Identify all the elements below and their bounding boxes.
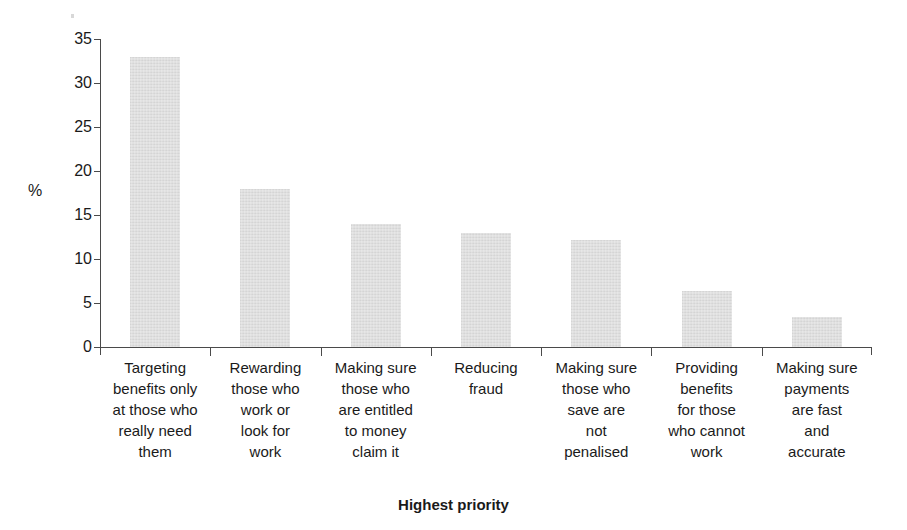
y-axis-title: %	[28, 182, 42, 200]
category-separator-tick	[431, 348, 432, 356]
x-axis-category-label-line: work	[204, 441, 326, 462]
x-axis-category-label-line: work	[645, 441, 767, 462]
x-axis-category-label: Targetingbenefits onlyat those whoreally…	[94, 357, 216, 462]
bar	[461, 233, 511, 347]
x-axis-category-label-line: Rewarding	[204, 357, 326, 378]
category-separator-tick	[321, 348, 322, 356]
x-axis-category-label-line: and	[756, 420, 878, 441]
x-axis-category-label-line: Providing	[645, 357, 767, 378]
x-axis-category-label-line: Reducing	[425, 357, 547, 378]
x-axis-category-label-line: work or	[204, 399, 326, 420]
y-axis-tick-label: 35	[52, 31, 92, 47]
x-axis-category-label: Reducingfraud	[425, 357, 547, 399]
x-axis-category-label: Making surethose whosave arenotpenalised	[535, 357, 657, 462]
x-axis-category-label-line: save are	[535, 399, 657, 420]
category-separator-tick	[541, 348, 542, 356]
bar	[351, 224, 401, 347]
y-axis-tick-label: 20	[52, 163, 92, 179]
x-axis-category-label-line: those who	[535, 378, 657, 399]
bar	[571, 240, 621, 347]
x-axis-category-label-line: look for	[204, 420, 326, 441]
x-axis-category-label-line: are fast	[756, 399, 878, 420]
x-axis-category-label-line: them	[94, 441, 216, 462]
x-axis-category-label-line: claim it	[315, 441, 437, 462]
bar	[792, 317, 842, 347]
y-axis-tick-label: 30	[52, 75, 92, 91]
x-axis-category-label-line: penalised	[535, 441, 657, 462]
bar	[682, 291, 732, 347]
bar	[130, 57, 180, 347]
x-axis-category-label: Making surethose whoare entitledto money…	[315, 357, 437, 462]
x-axis-category-label-line: Targeting	[94, 357, 216, 378]
x-axis-category-label: Rewardingthose whowork orlook forwork	[204, 357, 326, 462]
x-axis-category-label-line: Making sure	[535, 357, 657, 378]
y-axis-tick-label: 25	[52, 119, 92, 135]
x-axis-title: Highest priority	[0, 496, 907, 513]
y-axis-tick-label: 15	[52, 207, 92, 223]
x-axis-category-label-line: to money	[315, 420, 437, 441]
x-axis-line	[100, 347, 872, 348]
x-axis-category-label-line: fraud	[425, 378, 547, 399]
x-axis-category-label-line: really need	[94, 420, 216, 441]
category-separator-tick	[762, 348, 763, 356]
y-axis-tick-label: 5	[52, 295, 92, 311]
x-axis-category-label-line: at those who	[94, 399, 216, 420]
scan-artifact	[71, 14, 74, 18]
x-axis-category-label-line: benefits only	[94, 378, 216, 399]
plot-area	[100, 39, 872, 347]
x-axis-category-label: Providingbenefitsfor thosewho cannotwork	[645, 357, 767, 462]
bar	[240, 189, 290, 347]
x-axis-category-label-line: benefits	[645, 378, 767, 399]
x-axis-start-cap	[100, 347, 101, 355]
x-axis-category-label-line: Making sure	[315, 357, 437, 378]
x-axis-category-label-line: not	[535, 420, 657, 441]
y-axis-tick-label: 10	[52, 251, 92, 267]
x-axis-category-label-line: Making sure	[756, 357, 878, 378]
x-axis-category-label-line: for those	[645, 399, 767, 420]
y-axis-tick-label: 0	[52, 339, 92, 355]
category-separator-tick	[210, 348, 211, 356]
x-axis-category-label-line: those who	[204, 378, 326, 399]
x-axis-category-label: Making surepaymentsare fastandaccurate	[756, 357, 878, 462]
category-separator-tick	[651, 348, 652, 356]
x-axis-category-label-line: are entitled	[315, 399, 437, 420]
x-axis-category-label-line: who cannot	[645, 420, 767, 441]
x-axis-category-label-line: accurate	[756, 441, 878, 462]
x-axis-category-label-line: those who	[315, 378, 437, 399]
bar-chart: % 05101520253035 Targetingbenefits onlya…	[0, 0, 907, 530]
x-axis-end-cap	[871, 347, 872, 355]
x-axis-category-label-line: payments	[756, 378, 878, 399]
